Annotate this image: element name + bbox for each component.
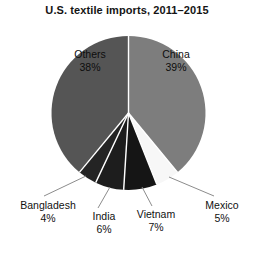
pie-label-mexico-name: Mexico — [192, 199, 252, 212]
pie-label-vietnam-name: Vietnam — [124, 208, 188, 221]
pie-label-others: Others 38% — [54, 48, 126, 74]
pie-label-vietnam-value: 7% — [124, 221, 188, 234]
leader-line-bangladesh — [44, 176, 86, 196]
pie-label-vietnam: Vietnam 7% — [124, 208, 188, 234]
leader-line-india — [98, 187, 110, 208]
pie-label-india: India 6% — [78, 210, 130, 236]
leader-line-mexico — [169, 177, 214, 196]
pie-label-china-value: 39% — [140, 61, 212, 74]
pie-label-mexico: Mexico 5% — [192, 199, 252, 225]
pie-label-india-value: 6% — [78, 223, 130, 236]
pie-label-china: China 39% — [140, 48, 212, 74]
pie-label-china-name: China — [140, 48, 212, 61]
pie-label-others-value: 38% — [54, 61, 126, 74]
leader-line-vietnam — [142, 187, 152, 206]
pie-label-mexico-value: 5% — [192, 212, 252, 225]
pie-label-india-name: India — [78, 210, 130, 223]
chart-canvas: U.S. textile imports, 2011–2015 — [0, 0, 254, 253]
pie-label-others-name: Others — [54, 48, 126, 61]
